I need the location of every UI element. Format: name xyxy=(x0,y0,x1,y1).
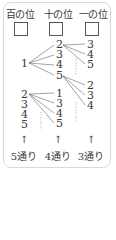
node-ones: 5 xyxy=(87,58,94,71)
up-arrow-icon: ↑ xyxy=(20,134,28,145)
ones-count: 3通り xyxy=(78,148,104,163)
node-tens: 5 xyxy=(56,117,63,130)
up-arrow-icon: ↑ xyxy=(54,134,62,145)
node-hundreds: 5 xyxy=(21,118,28,131)
node-ones: 4 xyxy=(87,99,94,112)
tens-count: 4通り xyxy=(45,148,71,163)
node-tens: 5 xyxy=(56,69,63,82)
node-hundreds-1: 1 xyxy=(21,57,28,70)
hundreds-count: 5通り xyxy=(11,148,37,163)
up-arrow-icon: ↑ xyxy=(87,134,95,145)
